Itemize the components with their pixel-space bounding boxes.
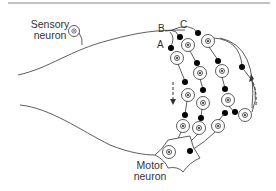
motor-label-line2: neuron	[130, 171, 170, 182]
pathway-b-label: B	[158, 24, 165, 34]
sensory-neuron-label: Sensory neuron	[26, 19, 74, 41]
pathway-c-label: C	[180, 20, 187, 30]
sensory-label-line2: neuron	[26, 30, 74, 41]
cord-outline-lower	[20, 105, 155, 155]
motor-neuron-label: Motor neuron	[130, 160, 170, 182]
pathway-a-label: A	[157, 40, 164, 50]
chain-1	[168, 45, 195, 145]
pathway-b	[165, 30, 178, 40]
arrow-down-dashed	[170, 82, 176, 105]
